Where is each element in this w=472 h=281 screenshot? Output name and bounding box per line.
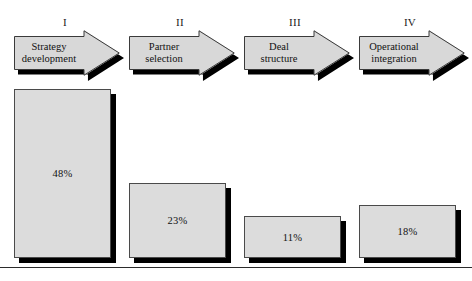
phase-arrow-1-label: Strategy development	[14, 30, 84, 76]
phase-numeral-4: IV	[385, 16, 435, 28]
phase-arrow-3[interactable]: Deal structure	[244, 30, 350, 76]
bar-4[interactable]: 18%	[359, 205, 456, 258]
bar-3[interactable]: 11%	[244, 216, 341, 258]
bar-1[interactable]: 48%	[14, 89, 111, 258]
bar-2-value: 23%	[168, 215, 188, 226]
phase-arrow-4-label: Operational integration	[359, 30, 429, 76]
bar-2[interactable]: 23%	[129, 183, 226, 258]
phase-numeral-3: III	[270, 16, 320, 28]
baseline-rule	[0, 267, 472, 268]
phase-arrow-2-label: Partner selection	[129, 30, 199, 76]
phase-arrow-2[interactable]: Partner selection	[129, 30, 235, 76]
bar-3-body: 11%	[244, 216, 341, 258]
phase-numeral-1: I	[40, 16, 90, 28]
bar-2-body: 23%	[129, 183, 226, 258]
bar-1-value: 48%	[53, 168, 73, 179]
phase-arrow-1[interactable]: Strategy development	[14, 30, 120, 76]
phase-arrow-3-label: Deal structure	[244, 30, 314, 76]
phase-numeral-2: II	[155, 16, 205, 28]
phase-arrow-4[interactable]: Operational integration	[359, 30, 465, 76]
bar-3-value: 11%	[283, 232, 302, 243]
bar-4-body: 18%	[359, 205, 456, 258]
bar-4-value: 18%	[398, 226, 418, 237]
figure-canvas: I II III IV Strategy development Partner…	[0, 0, 472, 281]
bar-1-body: 48%	[14, 89, 111, 258]
